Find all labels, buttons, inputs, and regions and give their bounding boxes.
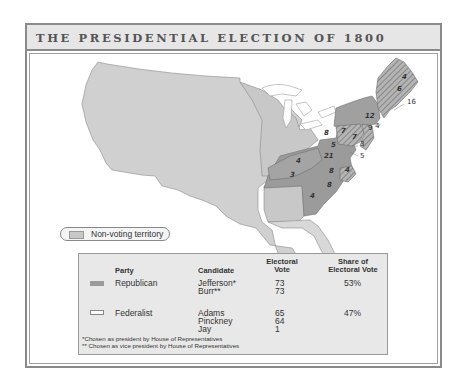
state-vote-label: 8 xyxy=(324,129,329,137)
party-federalist: Federalist xyxy=(115,309,152,318)
state-vote-label: 6 xyxy=(397,85,402,93)
header-electoral-vote: Electoral Vote xyxy=(262,258,302,274)
candidate-jay: Jay xyxy=(198,325,211,334)
votes-burr: 73 xyxy=(275,287,284,296)
non-voting-label: Non-voting territory xyxy=(91,229,163,239)
state-vote-label: 4 xyxy=(310,192,315,200)
state-vote-label: 4 xyxy=(402,73,407,81)
state-vote-label: 16 xyxy=(407,98,416,106)
header-electoral-vote-line2: Vote xyxy=(262,266,302,274)
state-vote-label: 21 xyxy=(324,152,334,160)
footnote-2: ** Chosen as vice president by House of … xyxy=(82,342,239,349)
state-vote-label: 3 xyxy=(360,140,364,148)
share-republican: 53% xyxy=(344,279,361,288)
state-vote-label: 7 xyxy=(352,133,357,141)
header-share-line2: Electoral Vote xyxy=(322,266,384,274)
mississippi-territory xyxy=(264,184,304,222)
republican-swatch xyxy=(90,281,104,286)
state-vote-label: 3 xyxy=(290,171,295,179)
non-voting-legend: Non-voting territory xyxy=(60,227,170,241)
footnote-1: *Chosen as president by House of Represe… xyxy=(82,335,222,342)
state-vote-label: 7 xyxy=(341,127,346,135)
state-vote-label: 8 xyxy=(327,181,332,189)
results-table: Party Candidate Electoral Vote Share of … xyxy=(78,253,388,355)
non-voting-swatch xyxy=(69,231,84,239)
share-federalist: 47% xyxy=(344,309,361,318)
federalist-swatch xyxy=(90,310,104,315)
state-vote-label: 4 xyxy=(296,157,301,165)
party-republican: Republican xyxy=(115,279,158,288)
state-vote-label: 9 xyxy=(368,124,372,132)
state-vote-label: 4 xyxy=(345,166,350,174)
state-vote-label: 12 xyxy=(365,112,375,120)
state-vote-label: 5 xyxy=(360,152,364,160)
header-share: Share of Electoral Vote xyxy=(322,258,384,274)
candidate-burr: Burr** xyxy=(198,287,221,296)
votes-jay: 1 xyxy=(275,325,280,334)
header-party: Party xyxy=(115,267,134,275)
header-candidate: Candidate xyxy=(198,267,234,275)
state-vote-label: 4 xyxy=(375,122,380,130)
state-vote-label: 8 xyxy=(329,167,334,175)
state-vote-label: 5 xyxy=(331,141,336,149)
